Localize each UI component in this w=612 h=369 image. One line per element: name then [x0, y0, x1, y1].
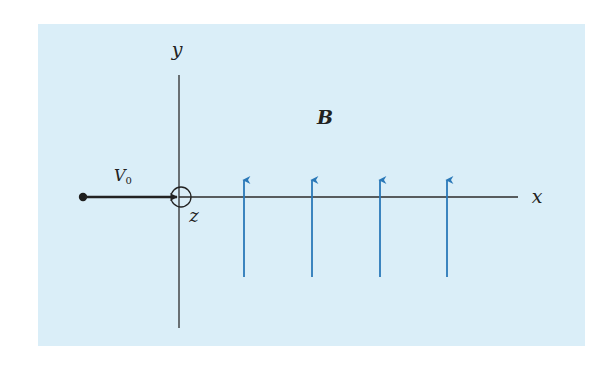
velocity-label-subscript: 0 — [126, 175, 132, 186]
z-axis-label: z — [188, 205, 199, 226]
y-axis-label: y — [171, 38, 183, 60]
x-axis-label: x — [532, 185, 543, 207]
field-label-B: B — [316, 106, 333, 128]
diagram-canvas: y x B V0 z — [0, 0, 612, 369]
